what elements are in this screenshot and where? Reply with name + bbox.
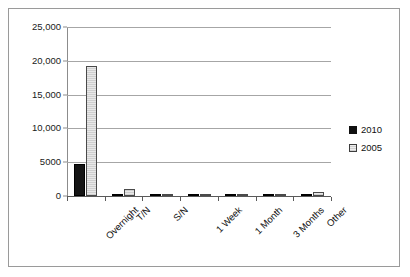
- legend-item-2010[interactable]: 2010: [349, 121, 382, 139]
- y-tick-label: 15,000: [32, 90, 61, 100]
- legend-swatch-icon: [349, 144, 357, 152]
- y-tick-mark: [63, 27, 67, 28]
- bar-2010-1-week[interactable]: [188, 194, 199, 196]
- y-axis-line: [67, 27, 68, 197]
- x-tick-mark: [180, 197, 181, 201]
- y-tick-label: 0: [56, 191, 61, 201]
- legend-item-2005[interactable]: 2005: [349, 139, 382, 157]
- bar-2010-other[interactable]: [301, 194, 312, 196]
- y-tick-label: 20,000: [32, 56, 61, 66]
- bar-2010-3-months[interactable]: [263, 194, 274, 196]
- legend-swatch-icon: [349, 126, 357, 134]
- bar-group-overnight: [74, 27, 97, 196]
- bar-2005-s-n[interactable]: [162, 194, 173, 196]
- bar-group-1-week: [188, 27, 211, 196]
- x-tick-mark: [331, 197, 332, 201]
- y-tick-label: 25,000: [32, 22, 61, 32]
- bar-2010-s-n[interactable]: [150, 194, 161, 196]
- x-tick-label: Other: [325, 205, 349, 229]
- bar-2005-overnight[interactable]: [86, 66, 97, 196]
- bar-2005-1-week[interactable]: [200, 194, 211, 196]
- x-tick-mark: [218, 197, 219, 201]
- chart-figure: 0500010,00015,00020,00025,000 OvernightT…: [8, 8, 400, 267]
- y-tick-mark: [63, 128, 67, 129]
- bar-chart: 0500010,00015,00020,00025,000 OvernightT…: [9, 9, 401, 268]
- bar-group-other: [301, 27, 324, 196]
- x-tick-label: 1 Week: [214, 205, 243, 234]
- x-tick-label: S/N: [172, 205, 190, 223]
- x-tick-label: Overnight: [104, 205, 140, 241]
- x-axis-line: [67, 196, 331, 197]
- legend-label: 2010: [361, 125, 382, 135]
- bar-group-1-month: [225, 27, 248, 196]
- bar-2005-3-months[interactable]: [275, 194, 286, 196]
- plot-area: 0500010,00015,00020,00025,000: [67, 27, 331, 197]
- y-tick-mark: [63, 162, 67, 163]
- bar-2010-t-n[interactable]: [112, 194, 123, 196]
- bar-group-s-n: [150, 27, 173, 196]
- y-tick-mark: [63, 94, 67, 95]
- bar-2005-other[interactable]: [313, 192, 324, 196]
- bar-group-t-n: [112, 27, 135, 196]
- x-tick-label: 3 Months: [292, 205, 326, 239]
- x-tick-mark: [105, 197, 106, 201]
- legend-label: 2005: [361, 143, 382, 153]
- x-tick-mark: [293, 197, 294, 201]
- x-tick-mark: [256, 197, 257, 201]
- y-tick-label: 5000: [40, 157, 61, 167]
- bar-2010-1-month[interactable]: [225, 194, 236, 196]
- y-tick-label: 10,000: [32, 124, 61, 134]
- x-tick-mark: [67, 197, 68, 201]
- y-tick-mark: [63, 60, 67, 61]
- bar-2005-1-month[interactable]: [237, 194, 248, 196]
- bar-2005-t-n[interactable]: [124, 189, 135, 196]
- bar-group-3-months: [263, 27, 286, 196]
- chart-legend: 20102005: [349, 121, 382, 157]
- bar-2010-overnight[interactable]: [74, 164, 85, 196]
- x-tick-mark: [142, 197, 143, 201]
- x-tick-label: 1 Month: [253, 205, 284, 236]
